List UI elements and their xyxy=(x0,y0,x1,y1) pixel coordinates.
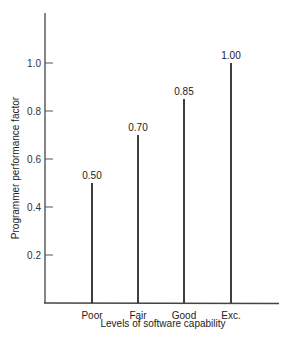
y-tick-label: 0.8 xyxy=(27,106,41,117)
y-tick-label: 1.0 xyxy=(27,58,41,69)
x-axis-title: Levels of software capability xyxy=(100,318,225,329)
value-label: 0.70 xyxy=(128,122,148,133)
y-tick-label: 0.4 xyxy=(27,202,41,213)
y-tick-label: 0.6 xyxy=(27,154,41,165)
value-label: 1.00 xyxy=(221,50,241,61)
bars: 0.50Poor0.70Fair0.85Good1.00Exc. xyxy=(81,50,241,321)
y-axis-title: Programmer performance factor xyxy=(10,96,21,239)
x-axis xyxy=(44,303,279,304)
y-ticks: 0.20.40.60.81.0 xyxy=(27,58,53,261)
bar-chart: 0.20.40.60.81.0 0.50Poor0.70Fair0.85Good… xyxy=(0,0,289,343)
value-label: 0.85 xyxy=(174,86,194,97)
y-tick-label: 0.2 xyxy=(27,250,41,261)
value-label: 0.50 xyxy=(82,170,102,181)
